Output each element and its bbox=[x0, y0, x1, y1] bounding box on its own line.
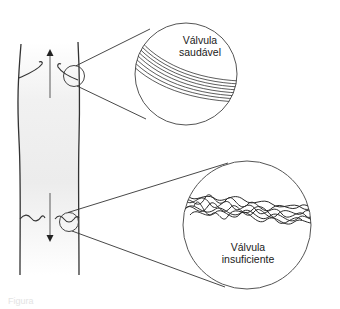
healthy-valve-label: Válvula saudável bbox=[160, 34, 240, 58]
label-line-2: insuficiente bbox=[206, 253, 290, 265]
label-line-1: Válvula bbox=[160, 34, 240, 46]
insufficient-valve-zoom bbox=[183, 161, 315, 289]
label-line-1: Válvula bbox=[206, 241, 290, 253]
insufficient-valve-label: Válvula insuficiente bbox=[206, 241, 290, 265]
label-line-2: saudável bbox=[160, 46, 240, 58]
figure-caption: Figura bbox=[8, 296, 338, 308]
